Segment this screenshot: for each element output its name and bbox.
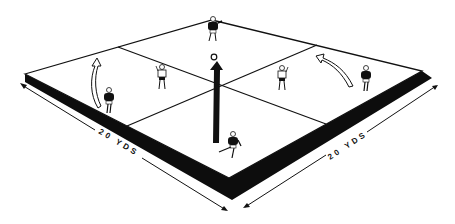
drill-diagram: 20 YDS 20 YDS xyxy=(0,0,455,224)
ball-icon xyxy=(211,54,217,60)
field-surface xyxy=(25,20,422,178)
field-illustration: 20 YDS 20 YDS xyxy=(0,0,455,224)
